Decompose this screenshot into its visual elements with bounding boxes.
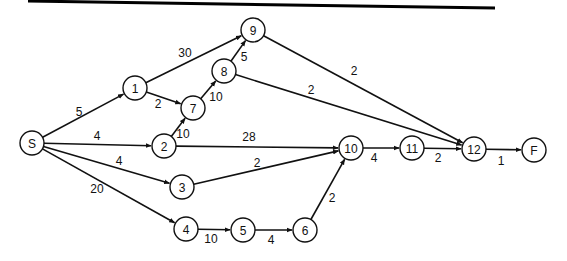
edge-S-to-3 (44, 146, 170, 183)
node-label: 12 (467, 143, 481, 157)
node-7: 7 (181, 96, 205, 120)
edge-weight-label: 2 (155, 97, 162, 111)
edge-12-to-F (486, 149, 521, 150)
edge-3-to-10 (194, 151, 339, 184)
node-3: 3 (170, 175, 194, 199)
node-8: 8 (212, 59, 236, 83)
node-label: 8 (221, 65, 228, 79)
node-F: F (522, 138, 546, 162)
edge-weight-label: 2 (329, 191, 336, 205)
edge-weight-label: 4 (94, 129, 101, 143)
node-2: 2 (152, 134, 176, 158)
edge-6-to-10 (311, 159, 345, 219)
edge-weight-label: 28 (242, 130, 256, 144)
edge-weight-label: 5 (76, 105, 83, 119)
edge-weight-label: 2 (435, 151, 442, 165)
edge-1-to-7 (146, 92, 180, 104)
node-label: S (28, 137, 36, 151)
edge-weight-label: 30 (178, 46, 192, 60)
edge-labels-layer: 5442030210105222821042421 (76, 46, 505, 247)
node-label: 6 (302, 224, 309, 238)
edge-9-to-12 (264, 36, 463, 143)
edge-S-to-4 (43, 149, 175, 223)
top-rule-divider (28, 1, 495, 8)
node-5: 5 (231, 218, 255, 242)
edge-weight-label: 4 (116, 154, 123, 168)
node-9: 9 (241, 18, 265, 42)
edge-4-to-5 (198, 229, 230, 230)
edge-8-to-12 (236, 75, 462, 146)
node-S: S (20, 131, 44, 155)
edge-S-to-1 (43, 94, 124, 137)
edge-weight-label: 20 (90, 182, 104, 196)
edge-weight-label: 10 (176, 127, 190, 141)
network-diagram: 5442030210105222821042421 S1234567891011… (0, 0, 567, 261)
edge-weight-label: 10 (204, 232, 218, 246)
edge-11-to-12 (424, 148, 461, 149)
edge-weight-label: 4 (268, 233, 275, 247)
node-12: 12 (462, 137, 486, 161)
node-label: 2 (161, 140, 168, 154)
node-label: 7 (190, 102, 197, 116)
edge-S-to-2 (44, 143, 151, 145)
node-6: 6 (293, 218, 317, 242)
node-label: 10 (344, 142, 358, 156)
node-10: 10 (339, 136, 363, 160)
edge-weight-label: 2 (308, 83, 315, 97)
edge-weight-label: 4 (371, 151, 378, 165)
node-label: 5 (240, 224, 247, 238)
edge-2-to-10 (176, 146, 338, 148)
edge-weight-label: 1 (498, 154, 505, 168)
node-1: 1 (123, 76, 147, 100)
edge-weight-label: 5 (241, 50, 248, 64)
node-label: 11 (406, 142, 419, 156)
node-label: F (530, 144, 537, 158)
edge-weight-label: 2 (351, 64, 358, 78)
edge-weight-label: 10 (209, 90, 223, 104)
edge-weight-label: 2 (254, 156, 261, 170)
node-label: 9 (250, 24, 257, 38)
node-label: 3 (179, 181, 186, 195)
edges-layer (43, 36, 522, 230)
node-11: 11 (400, 136, 424, 160)
node-label: 4 (183, 223, 190, 237)
node-4: 4 (174, 217, 198, 241)
node-label: 1 (132, 82, 139, 96)
